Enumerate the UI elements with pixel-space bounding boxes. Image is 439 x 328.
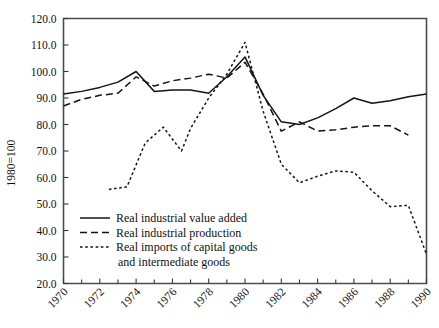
y-tick-label: 50.0 <box>36 198 56 210</box>
y-tick-label: 60.0 <box>36 172 56 184</box>
legend-label-2: Real imports of capital goods <box>116 240 258 254</box>
legend-label-3: and intermediate goods <box>118 255 230 269</box>
line-chart: 20.030.040.050.060.070.080.090.0100.0110… <box>0 0 439 328</box>
x-tick-label: 1974 <box>118 285 143 310</box>
y-tick-label: 80.0 <box>36 119 56 131</box>
x-tick-label: 1982 <box>263 285 288 310</box>
chart-container: 20.030.040.050.060.070.080.090.0100.0110… <box>0 0 439 328</box>
legend-label-1: Real industrial production <box>116 226 241 240</box>
x-tick-label: 1986 <box>336 285 361 310</box>
y-tick-label: 40.0 <box>36 225 56 237</box>
y-axis-title: 1980=100 <box>5 139 17 186</box>
y-tick-label: 90.0 <box>36 92 56 104</box>
y-tick-label: 110.0 <box>31 39 57 51</box>
series-line-0 <box>64 57 427 125</box>
x-tick-label: 1980 <box>227 285 252 310</box>
chart-legend: Real industrial value addedReal industri… <box>80 211 258 269</box>
legend-label-0: Real industrial value added <box>116 211 247 225</box>
x-tick-label: 1990 <box>408 285 433 310</box>
y-tick-label: 120.0 <box>31 13 57 25</box>
y-tick-label: 100.0 <box>31 66 57 78</box>
y-tick-label: 20.0 <box>36 278 56 290</box>
x-tick-label: 1984 <box>299 285 324 310</box>
y-tick-label: 30.0 <box>36 251 56 263</box>
y-tick-label: 70.0 <box>36 145 56 157</box>
x-tick-label: 1976 <box>154 285 179 310</box>
x-tick-label: 1988 <box>372 285 397 310</box>
x-tick-label: 1972 <box>81 285 106 310</box>
y-axis-title-text: 1980=100 <box>5 139 17 186</box>
x-tick-label: 1978 <box>190 285 215 310</box>
